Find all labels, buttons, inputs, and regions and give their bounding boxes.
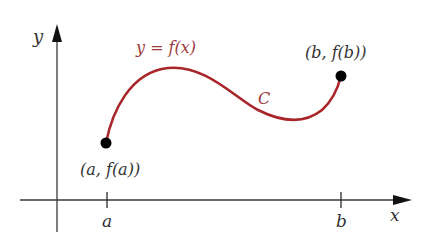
tick-b-label: b: [336, 211, 347, 231]
x-axis-label: x: [390, 205, 400, 225]
equation-label: y = f(x): [135, 38, 196, 57]
x-axis-arrow-icon: [393, 195, 412, 205]
point-b: [336, 71, 347, 82]
y-axis-arrow-icon: [52, 24, 62, 42]
point-b-label: (b, f(b)): [305, 43, 367, 62]
curve-name-label: C: [258, 89, 270, 108]
point-a-label: (a, f(a)): [80, 160, 140, 179]
curve-diagram: y x y = f(x) C (a, f(a)) (b, f(b)) a b: [0, 0, 429, 247]
point-a: [101, 138, 112, 149]
y-axis-label: y: [32, 26, 44, 47]
curve-c: [106, 68, 341, 143]
tick-a-label: a: [102, 211, 112, 231]
